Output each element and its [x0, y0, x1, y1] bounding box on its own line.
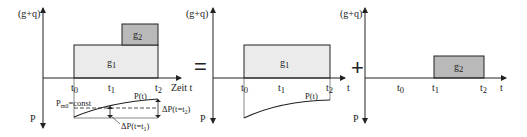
delta-p-t1-label: ΔP(t=t1): [121, 121, 150, 132]
panel-middle: (g+q) P g1 t0 t1 t2 t P(t): [186, 8, 350, 124]
pm0-const-label: Pm0=const: [56, 98, 92, 109]
tick-t2: t2: [155, 82, 162, 95]
y-label-bottom: P: [353, 113, 359, 124]
prestress-curve-label: P(t): [134, 91, 147, 101]
tick-t2: t2: [480, 82, 487, 95]
load-superposition-diagram: (g+q) P g1 g2 t0 t1 t2 Zeit t P(t) Pm0=c…: [0, 0, 527, 137]
y-label-top: (g+q): [186, 8, 208, 20]
y-label-top: (g+q): [340, 8, 362, 20]
y-label-top: (g+q): [18, 8, 40, 20]
x-label: Zeit t: [171, 82, 193, 93]
delta-p-t2-label: ΔP(t=t2): [162, 104, 191, 115]
tick-t2: t2: [326, 82, 333, 95]
plus-operator: +: [351, 55, 364, 80]
x-label: t: [347, 82, 350, 93]
y-label-bottom: P: [200, 113, 206, 124]
x-label: t: [500, 82, 503, 93]
equals-operator: =: [194, 54, 207, 79]
tick-t1: t1: [432, 82, 439, 95]
tick-t1: t1: [108, 82, 115, 95]
panel-left: (g+q) P g1 g2 t0 t1 t2 Zeit t P(t) Pm0=c…: [18, 8, 193, 132]
panel-right: (g+q) P g2 t0 t1 t2 t: [340, 8, 506, 124]
tick-t0: t0: [397, 82, 404, 95]
tick-t0: t0: [241, 82, 248, 95]
prestress-curve-label: P(t): [305, 91, 318, 101]
prestress-curve: [244, 100, 330, 118]
tick-t1: t1: [278, 82, 285, 95]
tick-t0: t0: [71, 82, 78, 95]
y-label-bottom: P: [30, 113, 36, 124]
